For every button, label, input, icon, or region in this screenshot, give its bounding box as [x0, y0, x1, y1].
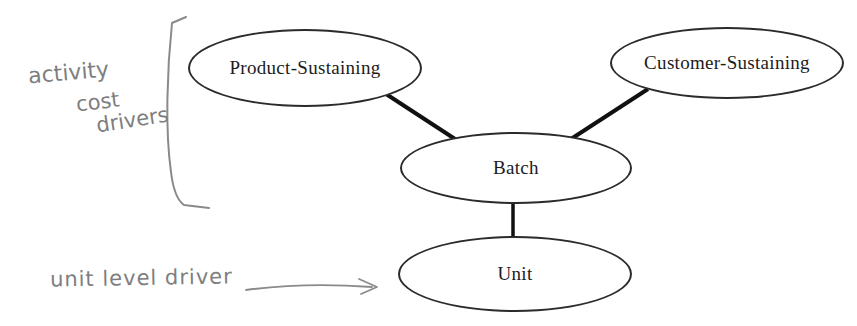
node-batch: Batch — [400, 132, 632, 204]
edge-customer-to-batch — [571, 89, 648, 139]
node-customer-sustaining-label: Customer-Sustaining — [644, 52, 810, 74]
node-batch-label: Batch — [493, 157, 539, 179]
node-unit: Unit — [398, 236, 632, 312]
diagram-canvas: Product-Sustaining Customer-Sustaining B… — [0, 0, 857, 326]
node-product-sustaining-label: Product-Sustaining — [229, 57, 380, 79]
node-product-sustaining: Product-Sustaining — [188, 29, 422, 107]
node-customer-sustaining: Customer-Sustaining — [610, 27, 844, 99]
annotation-unit-level-driver: unit level driver — [50, 264, 233, 291]
arrow-shaft — [246, 285, 372, 290]
handwritten-bracket — [167, 17, 209, 208]
edge-product-to-batch — [383, 92, 455, 139]
node-unit-label: Unit — [498, 263, 533, 285]
